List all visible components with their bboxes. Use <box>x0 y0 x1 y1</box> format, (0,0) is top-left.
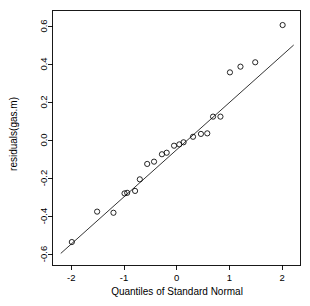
scatter-point <box>132 188 137 193</box>
qq-plot-figure: 0.60.40.20.0-0.2-0.4-0.6 -2-1012 Quantil… <box>0 0 310 306</box>
y-tick-label: 0.4 <box>38 57 49 70</box>
scatter-point <box>95 209 100 214</box>
scatter-point <box>238 64 243 69</box>
y-tick-label: -0.2 <box>38 170 49 186</box>
y-tick-label: -0.4 <box>38 208 49 224</box>
scatter-point <box>145 161 150 166</box>
y-tick-label: -0.6 <box>38 246 49 262</box>
scatter-point <box>218 114 223 119</box>
scatter-point <box>205 131 210 136</box>
x-axis-tick-labels: -2-1012 <box>67 272 285 283</box>
x-tick-label: 1 <box>227 272 232 283</box>
y-axis-tick-labels: 0.60.40.20.0-0.2-0.4-0.6 <box>38 19 49 262</box>
x-tick-label: -1 <box>120 272 128 283</box>
qqline-reference-line <box>61 45 294 253</box>
x-tick-label: 2 <box>279 272 284 283</box>
scatter-point <box>253 60 258 65</box>
scatter-point <box>198 131 203 136</box>
scatter-point <box>227 70 232 75</box>
scatter-point <box>171 143 176 148</box>
x-axis-title: Quantiles of Standard Normal <box>111 286 243 297</box>
qq-plot-svg: 0.60.40.20.0-0.2-0.4-0.6 -2-1012 Quantil… <box>0 0 310 306</box>
y-tick-label: 0.6 <box>38 19 49 32</box>
x-tick-label: 0 <box>174 272 179 283</box>
scatter-point <box>111 210 116 215</box>
scatter-points-group <box>69 22 285 244</box>
scatter-point <box>280 22 285 27</box>
y-tick-label: 0.0 <box>38 133 49 146</box>
reference-line-group <box>61 45 294 253</box>
y-axis-title: residuals(gas.m) <box>8 97 19 171</box>
y-tick-label: 0.2 <box>38 95 49 108</box>
x-axis-ticks <box>71 265 282 270</box>
x-tick-label: -2 <box>67 272 75 283</box>
scatter-point <box>137 177 142 182</box>
scatter-point <box>164 150 169 155</box>
scatter-point <box>151 159 156 164</box>
